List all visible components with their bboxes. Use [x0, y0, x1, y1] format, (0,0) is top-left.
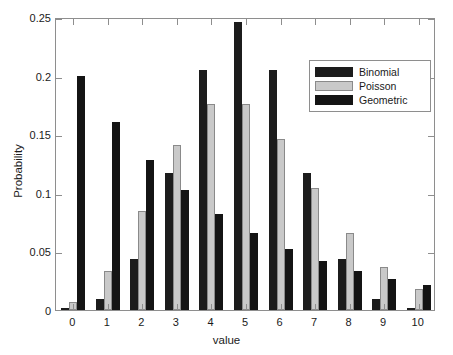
- bar-binomial-10: [407, 308, 415, 310]
- y-tick-mark: [56, 195, 62, 196]
- bar-geometric-3: [181, 190, 189, 310]
- bar-group: [194, 19, 229, 310]
- bar-geometric-6: [285, 249, 293, 310]
- bar-geometric-2: [146, 160, 154, 310]
- y-tick-label: 0.25: [5, 12, 51, 24]
- bar-geometric-0: [77, 76, 85, 310]
- figure-canvas: Binomial Poisson Geometric 00.050.10.150…: [0, 0, 453, 355]
- x-tick-mark-top: [246, 19, 247, 25]
- x-tick-mark: [108, 304, 109, 310]
- x-tick-label: 5: [230, 316, 260, 328]
- y-tick-mark-right: [428, 195, 434, 196]
- x-tick-label: 4: [195, 316, 225, 328]
- legend-item-poisson: Poisson: [315, 79, 425, 93]
- x-tick-label: 3: [161, 316, 191, 328]
- x-axis-title: value: [0, 334, 453, 346]
- y-tick-mark-right: [428, 136, 434, 137]
- y-tick-label: 0.2: [5, 71, 51, 83]
- bar-geometric-10: [423, 285, 431, 310]
- bar-poisson-6: [277, 139, 285, 310]
- bar-poisson-8: [346, 233, 354, 310]
- chart-legend: Binomial Poisson Geometric: [309, 60, 431, 112]
- x-tick-mark-top: [384, 19, 385, 25]
- x-tick-mark: [419, 304, 420, 310]
- bar-group: [160, 19, 195, 310]
- x-tick-mark: [211, 304, 212, 310]
- x-tick-mark: [384, 304, 385, 310]
- x-tick-label: 0: [57, 316, 87, 328]
- x-tick-mark: [246, 304, 247, 310]
- x-tick-mark: [73, 304, 74, 310]
- bar-binomial-0: [61, 308, 69, 310]
- x-tick-mark: [315, 304, 316, 310]
- x-tick-mark-top: [281, 19, 282, 25]
- x-tick-mark-top: [350, 19, 351, 25]
- legend-swatch-binomial: [315, 67, 353, 77]
- y-tick-mark-right: [428, 19, 434, 20]
- bar-geometric-9: [388, 279, 396, 310]
- y-tick-label: 0: [5, 305, 51, 317]
- x-tick-mark: [177, 304, 178, 310]
- bar-geometric-7: [319, 261, 327, 310]
- legend-swatch-geometric: [315, 95, 353, 105]
- legend-label-binomial: Binomial: [359, 66, 399, 78]
- x-tick-label: 9: [368, 316, 398, 328]
- x-tick-mark: [142, 304, 143, 310]
- x-tick-mark-top: [211, 19, 212, 25]
- x-tick-mark-top: [108, 19, 109, 25]
- legend-item-binomial: Binomial: [315, 65, 425, 79]
- bar-group: [56, 19, 91, 310]
- legend-swatch-poisson: [315, 81, 353, 91]
- legend-label-poisson: Poisson: [359, 80, 396, 92]
- y-tick-mark: [56, 136, 62, 137]
- x-tick-label: 7: [299, 316, 329, 328]
- bar-binomial-4: [199, 70, 207, 310]
- bar-poisson-4: [207, 104, 215, 310]
- bar-binomial-1: [96, 299, 104, 310]
- bar-group: [263, 19, 298, 310]
- legend-item-geometric: Geometric: [315, 93, 425, 107]
- x-tick-label: 1: [92, 316, 122, 328]
- bar-group: [229, 19, 264, 310]
- x-tick-mark-top: [419, 19, 420, 25]
- y-tick-mark-right: [428, 253, 434, 254]
- x-tick-mark-top: [315, 19, 316, 25]
- x-tick-label: 6: [265, 316, 295, 328]
- y-tick-mark: [56, 78, 62, 79]
- bar-poisson-2: [138, 211, 146, 310]
- plot-area: Binomial Poisson Geometric: [55, 18, 435, 311]
- bar-geometric-1: [112, 122, 120, 310]
- bar-poisson-5: [242, 104, 250, 310]
- x-tick-label: 8: [334, 316, 364, 328]
- x-tick-label: 10: [403, 316, 433, 328]
- x-tick-mark: [281, 304, 282, 310]
- bar-group: [125, 19, 160, 310]
- bar-group: [91, 19, 126, 310]
- x-tick-mark: [350, 304, 351, 310]
- bar-poisson-3: [173, 145, 181, 310]
- x-tick-mark-top: [142, 19, 143, 25]
- y-tick-mark: [56, 253, 62, 254]
- legend-label-geometric: Geometric: [359, 94, 407, 106]
- bar-poisson-7: [311, 188, 319, 310]
- bar-binomial-8: [338, 259, 346, 310]
- bar-geometric-5: [250, 233, 258, 310]
- y-tick-label: 0.05: [5, 246, 51, 258]
- bar-binomial-5: [234, 22, 242, 310]
- bar-binomial-7: [303, 173, 311, 310]
- bar-binomial-3: [165, 173, 173, 310]
- x-tick-mark-top: [177, 19, 178, 25]
- y-axis-title: Probability: [12, 101, 24, 241]
- y-tick-mark: [56, 19, 62, 20]
- bar-geometric-4: [215, 214, 223, 310]
- x-tick-mark-top: [73, 19, 74, 25]
- x-tick-label: 2: [126, 316, 156, 328]
- bar-binomial-2: [130, 259, 138, 310]
- bar-binomial-6: [269, 70, 277, 310]
- bar-binomial-9: [372, 299, 380, 310]
- bar-geometric-8: [354, 271, 362, 310]
